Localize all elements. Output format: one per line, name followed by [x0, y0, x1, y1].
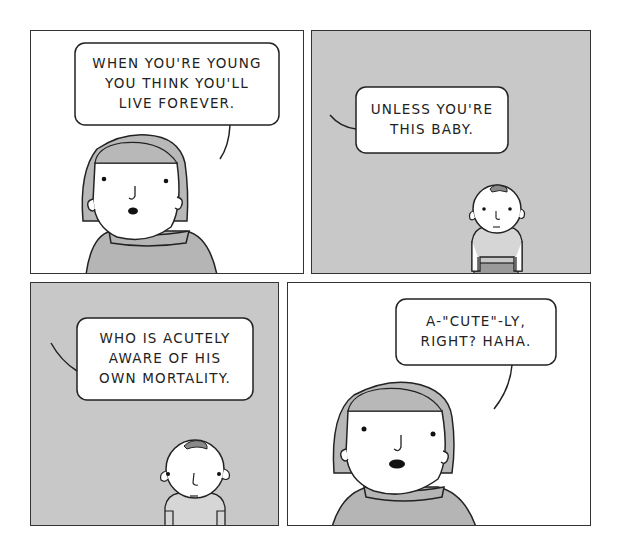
- dialogue-line: A-"CUTE"-LY,: [396, 311, 556, 331]
- dialogue-line: THIS BABY.: [356, 119, 508, 139]
- dialogue-line: OWN MORTALITY.: [77, 368, 253, 388]
- dialogue-line: RIGHT? HAHA.: [396, 331, 556, 351]
- baby-figure: [469, 185, 524, 274]
- panel-3-art: [31, 283, 279, 526]
- dialogue-line: WHEN YOU'RE YOUNG: [75, 53, 279, 73]
- comic-panel-3: WHO IS ACUTELY AWARE OF HIS OWN MORTALIT…: [30, 282, 279, 526]
- speech-tail: [494, 365, 512, 409]
- woman-figure: [82, 135, 217, 274]
- dialogue-line: YOU THINK YOU'LL: [75, 73, 279, 93]
- speech-tail: [51, 343, 77, 371]
- panel-4-dialogue: A-"CUTE"-LY, RIGHT? HAHA.: [396, 311, 556, 351]
- comic-panel-2: UNLESS YOU'RE THIS BABY.: [311, 30, 591, 274]
- comic-panel-1: WHEN YOU'RE YOUNG YOU THINK YOU'LL LIVE …: [30, 30, 304, 274]
- dialogue-line: UNLESS YOU'RE: [356, 99, 508, 119]
- panel-2-dialogue: UNLESS YOU'RE THIS BABY.: [356, 99, 508, 139]
- dialogue-line: LIVE FOREVER.: [75, 93, 279, 113]
- dialogue-line: WHO IS ACUTELY: [77, 328, 253, 348]
- panel-2-art: [312, 31, 591, 274]
- baby-figure: [161, 440, 230, 526]
- panel-3-dialogue: WHO IS ACUTELY AWARE OF HIS OWN MORTALIT…: [77, 328, 253, 388]
- comic-panel-4: A-"CUTE"-LY, RIGHT? HAHA.: [287, 282, 591, 526]
- speech-tail: [330, 115, 356, 129]
- dialogue-line: AWARE OF HIS: [77, 348, 253, 368]
- woman-figure: [332, 382, 476, 526]
- panel-1-dialogue: WHEN YOU'RE YOUNG YOU THINK YOU'LL LIVE …: [75, 53, 279, 113]
- speech-tail: [220, 125, 230, 159]
